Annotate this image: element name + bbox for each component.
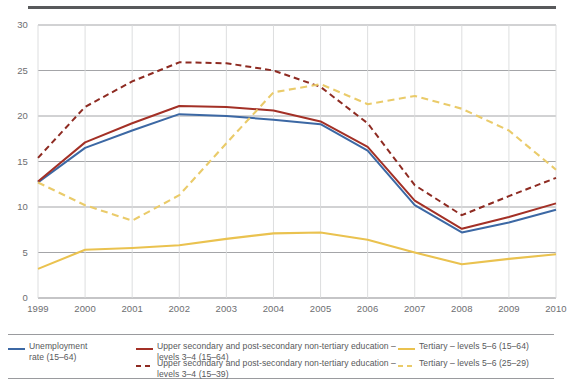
y-tick-label: 10 xyxy=(6,201,28,212)
series-line-3 xyxy=(38,62,556,215)
chart-legend: Unemployment rate (15–64) Upper secondar… xyxy=(0,334,562,379)
legend-row-1: Unemployment rate (15–64) Upper secondar… xyxy=(8,341,554,358)
plot-area xyxy=(0,0,562,315)
y-tick-label: 20 xyxy=(6,110,28,121)
series-line-4 xyxy=(38,232,556,268)
legend-top-rule xyxy=(8,334,554,335)
legend-label: Tertiary – levels 5–6 (15–64) xyxy=(419,341,529,352)
x-tick-label: 2002 xyxy=(157,303,201,314)
legend-item-upper-secondary-15-39[interactable]: Upper secondary and post-secondary non-t… xyxy=(136,358,398,379)
x-tick-label: 2005 xyxy=(299,303,343,314)
y-tick-label: 5 xyxy=(6,247,28,258)
x-tick-label: 2009 xyxy=(487,303,531,314)
legend-swatch-dashed-line-icon xyxy=(398,361,415,371)
y-tick-label: 0 xyxy=(6,292,28,303)
legend-label: Upper secondary and post-secondary non-t… xyxy=(157,358,398,379)
x-tick-label: 2010 xyxy=(534,303,571,314)
legend-swatch-line-icon xyxy=(398,344,415,354)
line-chart-svg xyxy=(0,0,562,315)
legend-item-tertiary-25-29[interactable]: Tertiary – levels 5–6 (25–29) xyxy=(398,358,548,371)
legend-swatch-line-icon xyxy=(8,344,25,354)
x-tick-label: 1999 xyxy=(16,303,60,314)
y-tick-label: 30 xyxy=(6,19,28,30)
legend-row-2: Upper secondary and post-secondary non-t… xyxy=(8,358,554,375)
series-line-2 xyxy=(38,106,556,229)
x-tick-label: 2004 xyxy=(251,303,295,314)
x-tick-label: 2003 xyxy=(204,303,248,314)
legend-label: Tertiary – levels 5–6 (25–29) xyxy=(419,358,529,369)
legend-swatch-line-icon xyxy=(136,344,153,354)
legend-item-tertiary-15-64[interactable]: Tertiary – levels 5–6 (15–64) xyxy=(398,341,548,354)
x-tick-label: 2008 xyxy=(440,303,484,314)
series-line-5 xyxy=(38,84,556,221)
x-tick-label: 2007 xyxy=(393,303,437,314)
legend-swatch-dashed-line-icon xyxy=(136,361,153,371)
y-tick-label: 25 xyxy=(6,65,28,76)
y-tick-label: 15 xyxy=(6,156,28,167)
x-tick-label: 2001 xyxy=(110,303,154,314)
x-tick-label: 2006 xyxy=(346,303,390,314)
x-tick-label: 2000 xyxy=(63,303,107,314)
